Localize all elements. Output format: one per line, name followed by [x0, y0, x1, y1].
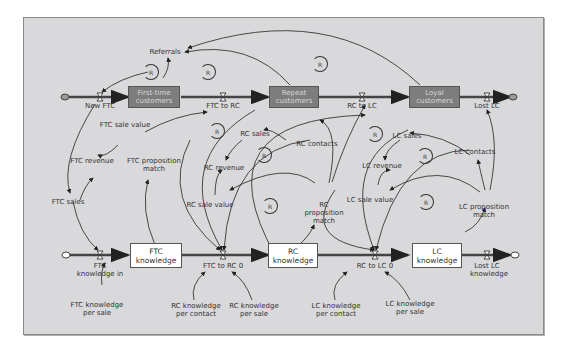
loop-label: R — [423, 153, 427, 160]
var-ftc-revenue[interactable]: FTC revenue — [70, 157, 114, 165]
flow-lost-lc-knowledge[interactable]: Lost LC knowledge — [470, 262, 504, 278]
loop-marker-r: R — [256, 147, 272, 163]
stock-loyal-customers[interactable]: Loyal customers — [409, 86, 460, 108]
flow-ftc-to-rc[interactable]: FTC to RC — [206, 102, 240, 110]
var-ftc-sales[interactable]: FTC sales — [52, 198, 85, 206]
loop-label: R — [215, 128, 219, 135]
loop-label: R — [149, 69, 153, 76]
loop-marker-r: R — [200, 64, 216, 80]
loop-marker-r: R — [417, 148, 433, 164]
flow-rc-to-lc[interactable]: RC to LC — [347, 102, 377, 110]
var-lc-proposition-match[interactable]: LC proposition match — [458, 203, 510, 219]
var-lc-sales[interactable]: LC sales — [393, 132, 422, 140]
var-rc-contacts[interactable]: RC contacts — [296, 140, 337, 148]
var-rc-sales[interactable]: RC sales — [240, 130, 269, 138]
loop-label: R — [318, 61, 322, 68]
var-lc-contacts[interactable]: LC contacts — [455, 148, 496, 156]
flow-ftc-knowledge-in[interactable]: FTC knowledge in — [76, 262, 124, 278]
var-rc-sale-value[interactable]: RC sale value — [186, 201, 233, 209]
var-rc-knowledge-per-sale[interactable]: RC knowledge per sale — [226, 302, 282, 318]
loop-marker-r: R — [312, 56, 328, 72]
loop-label: R — [268, 203, 272, 210]
flow-ftc-to-rc-0[interactable]: FTC to RC 0 — [203, 262, 243, 270]
flow-rc-to-lc-0[interactable]: RC to LC 0 — [357, 262, 393, 270]
var-lc-sale-value[interactable]: LC sale value — [347, 196, 394, 204]
var-lc-revenue[interactable]: LC revenue — [362, 162, 402, 170]
loop-marker-r: R — [367, 126, 383, 142]
loop-marker-r: R — [418, 194, 434, 210]
flow-new-ftc[interactable]: New FTC — [85, 102, 115, 110]
var-ftc-sale-value[interactable]: FTC sale value — [100, 121, 150, 129]
flow-lost-lc[interactable]: Lost LC — [474, 102, 499, 110]
stock-ftc-knowledge[interactable]: FTC knowledge — [130, 243, 182, 268]
var-ftc-proposition-match[interactable]: FTC proposition match — [125, 157, 183, 173]
var-lc-knowledge-per-contact[interactable]: LC knowledge per contact — [308, 302, 364, 318]
loop-label: R — [262, 152, 266, 159]
var-ftc-knowledge-per-sale[interactable]: FTC knowledge per sale — [69, 301, 125, 317]
loop-label: R — [424, 199, 428, 206]
loop-marker-r: R — [143, 64, 159, 80]
stock-repeat-customers[interactable]: Repeat customers — [269, 86, 319, 108]
stock-rc-knowledge[interactable]: RC knowledge — [268, 243, 318, 268]
loop-marker-r: R — [262, 198, 278, 214]
var-lc-knowledge-per-sale[interactable]: LC knowledge per sale — [382, 300, 438, 316]
loop-label: R — [206, 69, 210, 76]
stock-lc-knowledge[interactable]: LC knowledge — [412, 243, 462, 268]
loop-label: R — [373, 131, 377, 138]
var-rc-knowledge-per-contact[interactable]: RC knowledge per contact — [168, 302, 224, 318]
var-referrals[interactable]: Referrals — [149, 48, 180, 56]
var-rc-revenue[interactable]: RC revenue — [204, 164, 244, 172]
var-rc-proposition-match[interactable]: RC proposition match — [299, 201, 349, 225]
loop-marker-r: R — [209, 123, 225, 139]
stock-first-time-customers[interactable]: First-time customers — [128, 86, 180, 108]
